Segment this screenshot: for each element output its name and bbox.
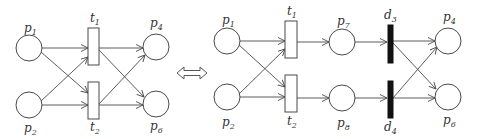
label-t2: t2 [90,120,100,136]
transition-t2 [285,75,297,112]
label-p2: p2 [222,115,235,131]
arc-t1-p6 [99,50,144,97]
arc-p2-t1 [239,49,285,94]
arc-p1-t2 [41,52,88,93]
label-p4: p4 [150,16,163,32]
label-p6: p6 [150,119,163,135]
transition-t2 [88,82,99,119]
petri-net-diagram: p1 p2 p4 p6 t1 t2 [0,0,477,139]
place-p4 [143,34,169,60]
immediate-transition-d4 [388,81,393,118]
label-p8: p8 [337,116,350,132]
label-p6: p6 [443,113,456,129]
label-p1: p1 [24,21,37,37]
arc-t2-p4 [99,55,145,104]
right-net: p1 p2 p7 p8 p4 p6 t1 t2 d3 d4 [214,4,461,136]
place-p2 [16,92,42,118]
equivalence-double-arrow-icon [177,67,207,79]
place-p1 [16,35,42,61]
place-p6 [143,91,169,117]
arc-p2-t1 [41,57,88,101]
label-p4: p4 [443,10,456,26]
arc-d4-p4 [393,47,437,98]
label-d3: d3 [384,8,397,24]
place-p8 [329,85,355,111]
label-t2: t2 [287,114,297,130]
label-p1: p1 [222,13,235,29]
label-p2: p2 [24,121,37,137]
arc-p1-t2 [239,45,285,87]
label-t1: t1 [287,4,297,20]
transition-t1 [88,28,99,65]
immediate-transition-d3 [388,25,393,63]
left-net: p1 p2 p4 p6 t1 t2 [16,11,169,137]
place-p2 [214,84,240,110]
arc-d3-p6 [393,43,436,89]
label-t1: t1 [90,11,100,27]
place-p6 [435,84,461,110]
place-p7 [329,29,355,55]
place-p4 [435,28,461,54]
place-p1 [214,28,240,54]
label-d4: d4 [384,120,397,136]
transition-t1 [285,21,297,58]
label-p7: p7 [337,14,351,30]
